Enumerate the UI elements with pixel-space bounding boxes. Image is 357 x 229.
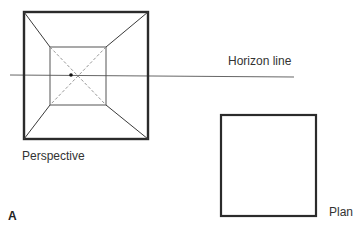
perspective-label: Perspective: [22, 150, 85, 162]
diagram-drawing: [0, 0, 357, 229]
horizon-line: [10, 75, 294, 77]
plan-label: Plan: [329, 206, 353, 218]
vanishing-point-dot: [69, 73, 73, 77]
perspective-diagram: Horizon line Perspective Plan A: [0, 0, 357, 229]
plan-square: [221, 115, 316, 216]
figure-letter: A: [8, 210, 17, 222]
horizon-line-label: Horizon line: [228, 55, 291, 67]
